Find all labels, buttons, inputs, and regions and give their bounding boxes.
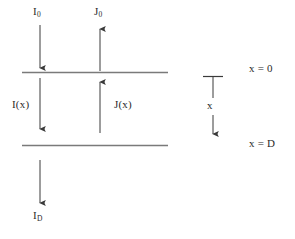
label-i0: I0 bbox=[33, 6, 41, 17]
figure-canvas: I0 J0 I(x) J(x) ID x x = 0 x = D bbox=[0, 0, 295, 239]
label-depth-axis: x bbox=[207, 100, 213, 111]
label-x-equals-d: x = D bbox=[249, 138, 275, 149]
diagram-vector-layer bbox=[0, 0, 295, 239]
label-j0: J0 bbox=[94, 6, 102, 17]
label-id: ID bbox=[33, 210, 42, 221]
label-jx: J(x) bbox=[114, 99, 132, 110]
label-ix: I(x) bbox=[12, 99, 29, 110]
label-j0-subscript: 0 bbox=[98, 10, 102, 19]
label-i0-subscript: 0 bbox=[37, 10, 41, 19]
label-x-equals-zero: x = 0 bbox=[249, 63, 273, 74]
label-id-subscript: D bbox=[37, 214, 42, 223]
